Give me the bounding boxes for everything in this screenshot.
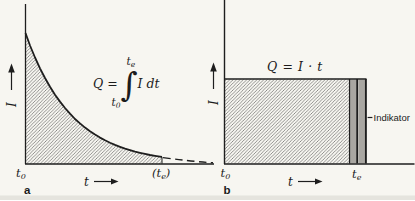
indikator-label: Indikator xyxy=(374,112,410,123)
panel-a-x-label-text: t xyxy=(84,175,89,189)
textbook-figure: I t t0 (te) Q = ∫ te t0 I dt a xyxy=(0,0,415,200)
panel-b-formula: Q = I · t xyxy=(267,59,323,74)
panel-b-y-label-text: I xyxy=(207,100,221,106)
panel-b-x-label-text: t xyxy=(288,175,293,189)
indicator-bar-2 xyxy=(358,80,365,164)
panel-a-y-label-text: I xyxy=(5,102,19,108)
figure-canvas: I t t0 (te) Q = ∫ te t0 I dt a xyxy=(0,0,415,200)
indicator-callout: Indikator xyxy=(368,112,410,123)
formula-lhs: Q = xyxy=(93,76,118,91)
panel-b-letter: b xyxy=(224,184,231,196)
panel-b-hatched-area xyxy=(225,80,349,164)
formula-integrand: I dt xyxy=(137,76,161,91)
integral-sign: ∫ xyxy=(121,65,138,104)
indicator-bar-1 xyxy=(350,80,356,164)
scan-edge-artifact xyxy=(0,196,415,201)
panel-a-letter: a xyxy=(24,184,31,196)
